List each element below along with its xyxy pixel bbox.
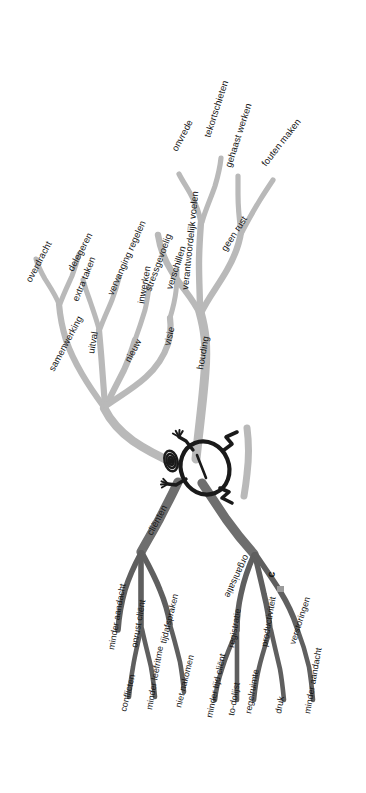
label-to-dolijst: to-dolijst: [226, 681, 242, 716]
label-niet-nakomen: niet nakomen: [173, 654, 196, 709]
label-layer: houdingstressgevoeligverantwoordelijk vo…: [23, 79, 324, 718]
label-regelruimte: regelruimte: [243, 668, 261, 714]
label-druk: druk: [273, 695, 286, 714]
branch-uitval: [99, 330, 105, 406]
label-minder-tijd-client: minder tijd cliënt: [204, 652, 227, 718]
label-registratie: registratie: [226, 608, 243, 649]
artifact-glyph: c: [264, 570, 277, 578]
branch-stub-right: [244, 428, 249, 496]
branch-tekortschieten: [202, 158, 221, 222]
spiral-icon: [162, 449, 180, 473]
label-gehaast-werken: gehaast werken: [222, 102, 253, 169]
label-uitval: uitval: [85, 331, 100, 355]
branch-houding: [196, 312, 206, 459]
label-minder-aandacht-c: minder aandacht: [106, 582, 128, 650]
label-onvrede: onvrede: [169, 118, 195, 153]
label-geen-rust: geen rust: [218, 214, 249, 253]
branch-fouten-maken: [242, 180, 273, 232]
label-nieuw: nieuw: [122, 337, 143, 364]
figure-arm-upper-right: [224, 432, 237, 450]
label-conflicten: conflicten: [118, 673, 137, 712]
label-fouten-maken: fouten maken: [259, 116, 303, 168]
figure-inner-stroke: [197, 455, 206, 478]
artifact-mark: [277, 586, 284, 592]
label-visie: visie: [161, 325, 176, 346]
mindmap-canvas: houdingstressgevoeligverantwoordelijk vo…: [0, 0, 366, 793]
branch-verantwoordelijk-voelen: [199, 222, 201, 312]
label-tekortschieten: tekortschieten: [201, 79, 230, 139]
label-overdracht: overdracht: [23, 239, 54, 284]
figure-arm-lower-right: [220, 488, 232, 503]
mindmap-svg: houdingstressgevoeligverantwoordelijk vo…: [0, 0, 366, 793]
branch-druk: [271, 630, 284, 700]
